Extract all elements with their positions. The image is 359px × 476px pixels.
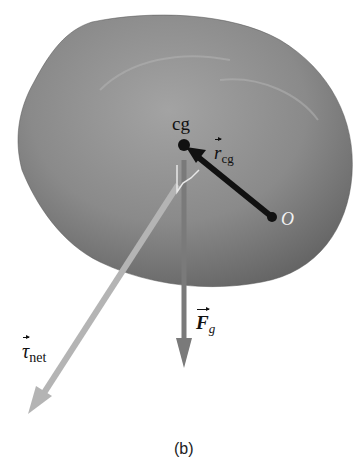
tau-net-label: τnet [22,340,46,366]
origin-point [267,212,277,222]
diagram-canvas [0,0,359,476]
tau-vector-symbol: τ [22,340,29,363]
panel-caption: (b) [174,440,194,458]
r-cg-label: rcg [214,142,234,167]
fg-label: Fg [196,312,215,337]
cg-label: cg [172,113,190,135]
r-subscript: cg [221,151,233,166]
origin-label: O [281,209,294,230]
f-vector-symbol: F [196,312,209,334]
tau-subscript: net [29,350,46,365]
r-vector-symbol: r [214,142,221,164]
f-subscript: g [209,321,216,336]
cg-point [178,139,190,151]
